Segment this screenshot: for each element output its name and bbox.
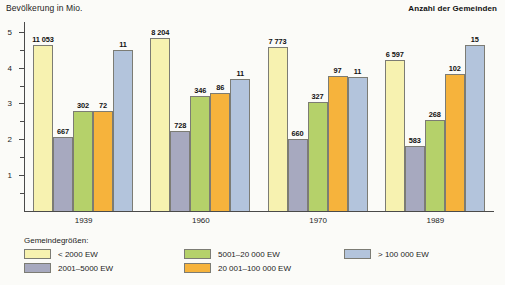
legend-color-swatch	[24, 249, 51, 259]
y-axis-title: Bevölkerung in Mio.	[6, 3, 83, 13]
bar-group: 6 597583268102151989	[377, 22, 494, 211]
bar-value-label: 15	[471, 35, 479, 44]
legend-color-swatch	[184, 263, 211, 273]
bar[interactable]: 72	[93, 111, 113, 211]
secondary-axis-title: Anzahl der Gemeinden	[408, 4, 497, 13]
y-axis-tick-label: 2	[8, 135, 12, 144]
y-axis-tick-label: 4	[8, 63, 12, 72]
bar-groups: 11 053667302721119398 204728346861119607…	[25, 22, 494, 211]
bar-group: 11 05366730272111939	[25, 22, 142, 211]
bar[interactable]: 11	[113, 50, 133, 211]
y-axis-tick-label: 3	[8, 99, 12, 108]
bar-value-label: 11	[119, 40, 127, 49]
y-axis-tick: 3	[19, 103, 24, 104]
bar[interactable]: 11	[230, 79, 250, 211]
y-axis-tick-label: 5	[8, 27, 12, 36]
bar[interactable]: 86	[210, 93, 230, 211]
bar-value-label: 302	[77, 101, 89, 110]
bar-value-label: 583	[409, 136, 421, 145]
bar[interactable]: 7 773	[268, 47, 288, 211]
bar[interactable]: 11 053	[33, 45, 53, 211]
bar[interactable]: 346	[190, 96, 210, 211]
bar-value-label: 346	[194, 86, 206, 95]
y-axis-minor-tick	[20, 193, 24, 194]
bar-group: 8 20472834686111960	[142, 22, 259, 211]
legend-item-label: 2001–5000 EW	[58, 264, 113, 273]
legend-item[interactable]: 5001–20 000 EW	[184, 249, 344, 259]
bar-value-label: 11	[354, 67, 362, 76]
bar[interactable]: 97	[328, 76, 348, 212]
bar[interactable]: 660	[288, 139, 308, 211]
bar-value-label: 6 597	[386, 50, 404, 59]
bar-value-label: 72	[99, 101, 107, 110]
legend-color-swatch	[344, 249, 371, 259]
y-axis-minor-tick	[20, 50, 24, 51]
legend-item[interactable]: 2001–5000 EW	[24, 263, 184, 273]
bar[interactable]: 11	[348, 77, 368, 211]
x-axis-category-label: 1960	[142, 216, 259, 225]
y-axis-tick: 2	[19, 139, 24, 140]
bar-value-label: 97	[333, 66, 341, 75]
legend-column: 5001–20 000 EW20 001–100 000 EW	[184, 249, 344, 273]
y-axis-minor-tick	[20, 157, 24, 158]
bar-value-label: 268	[429, 110, 441, 119]
bar-value-label: 660	[291, 129, 303, 138]
x-axis-category-label: 1970	[260, 216, 377, 225]
bar-value-label: 102	[449, 64, 461, 73]
legend-color-swatch	[184, 249, 211, 259]
legend-color-swatch	[24, 263, 51, 273]
bar-value-label: 8 204	[151, 28, 169, 37]
legend-column: < 2000 EW2001–5000 EW	[24, 249, 184, 273]
chart-page: Bevölkerung in Mio. Anzahl der Gemeinden…	[0, 0, 505, 285]
legend-item-label: > 100 000 EW	[378, 250, 429, 259]
bar[interactable]: 268	[425, 120, 445, 211]
legend-item[interactable]: > 100 000 EW	[344, 249, 484, 259]
bar-value-label: 11	[236, 69, 244, 78]
bar-value-label: 11 053	[32, 35, 54, 44]
legend-grid: < 2000 EW2001–5000 EW5001–20 000 EW20 00…	[24, 249, 484, 273]
bar-value-label: 327	[311, 92, 323, 101]
bar-value-label: 7 773	[269, 37, 287, 46]
y-axis-tick-label: 1	[8, 171, 12, 180]
legend-item-label: 5001–20 000 EW	[218, 250, 280, 259]
legend-title: Gemeindegrößen:	[24, 236, 484, 245]
y-axis-tick: 4	[19, 68, 24, 69]
bar[interactable]: 8 204	[150, 38, 170, 211]
y-axis-tick: 1	[19, 175, 24, 176]
y-axis-minor-tick	[20, 121, 24, 122]
y-axis-tick: 5	[19, 32, 24, 33]
bar[interactable]: 302	[73, 111, 93, 211]
x-axis-category-label: 1939	[25, 216, 142, 225]
bar[interactable]: 6 597	[385, 60, 405, 211]
bar-value-label: 728	[174, 121, 186, 130]
legend-item[interactable]: < 2000 EW	[24, 249, 184, 259]
bar[interactable]: 327	[308, 102, 328, 211]
bar-value-label: 667	[57, 127, 69, 136]
bar[interactable]: 583	[405, 146, 425, 211]
x-axis-category-label: 1989	[377, 216, 494, 225]
bar[interactable]: 102	[445, 74, 465, 211]
y-axis-minor-tick	[20, 86, 24, 87]
bar[interactable]: 728	[170, 131, 190, 211]
bar-value-label: 86	[216, 83, 224, 92]
legend: Gemeindegrößen: < 2000 EW2001–5000 EW500…	[24, 236, 484, 273]
legend-item[interactable]: 20 001–100 000 EW	[184, 263, 344, 273]
x-axis-line	[24, 211, 494, 212]
legend-item-label: 20 001–100 000 EW	[218, 264, 291, 273]
legend-item-label: < 2000 EW	[58, 250, 98, 259]
bar-group: 7 77366032797111970	[260, 22, 377, 211]
plot-area: 12345 11 053667302721119398 204728346861…	[24, 22, 494, 212]
bar[interactable]: 667	[53, 137, 73, 211]
legend-column: > 100 000 EW	[344, 249, 484, 273]
bar[interactable]: 15	[465, 45, 485, 211]
